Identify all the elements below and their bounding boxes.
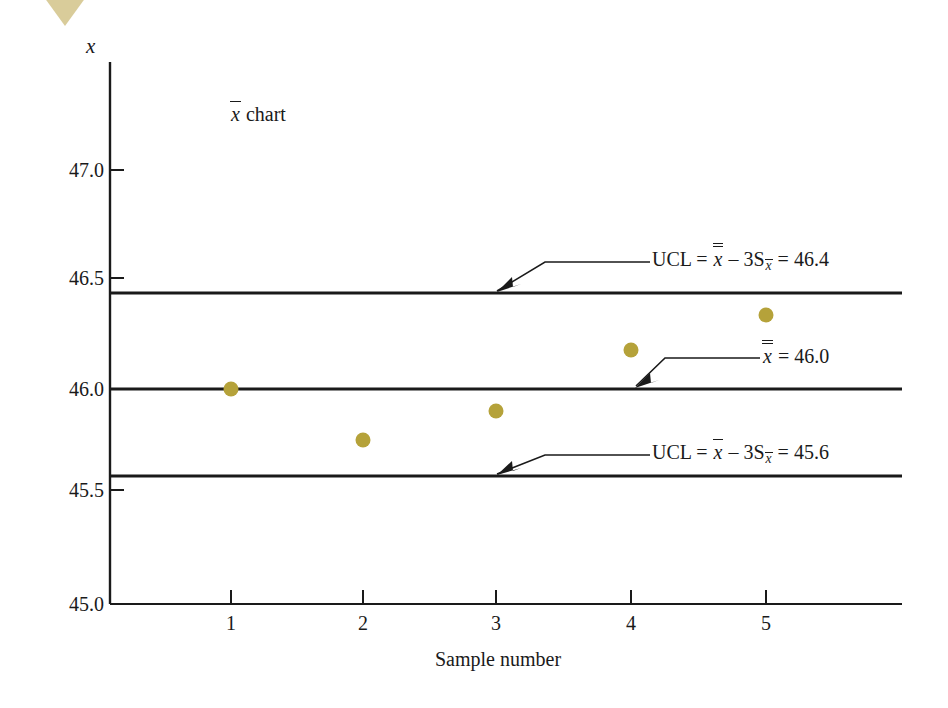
y-tick-label-47: 47.0: [34, 159, 104, 182]
x-tick-label-4: 4: [611, 612, 651, 635]
ucl-subscript: x: [765, 258, 773, 274]
x-tick-label-3: 3: [476, 612, 516, 635]
center-annotation: x = 46.0: [762, 345, 829, 368]
ucl-prefix: UCL =: [652, 248, 713, 270]
y-tick-label-455: 45.5: [34, 479, 104, 502]
data-point-3: [489, 404, 504, 419]
x-tick-label-5: 5: [746, 612, 786, 635]
x-tick-label-2: 2: [343, 612, 383, 635]
chart-title-xbar: x: [230, 103, 241, 126]
ucl-annotation: UCL = x – 3Sx = 46.4: [652, 248, 829, 274]
lcl-leader-line: [497, 455, 650, 474]
figure-canvas: x 47.0 46.5 46.0 45.5 45.0 1 2 3 4 5 Sam…: [0, 0, 948, 708]
data-point-1: [224, 382, 239, 397]
y-tick-label-45: 45.0: [34, 593, 104, 616]
lcl-annotation: UCL = x – 3Sx = 45.6: [652, 441, 829, 467]
center-value: 46.0: [794, 345, 829, 367]
chart-title: x chart: [230, 103, 286, 126]
lcl-prefix: UCL =: [652, 441, 713, 463]
x-axis-label: Sample number: [398, 648, 598, 671]
data-point-4: [624, 343, 639, 358]
center-leader-line: [636, 358, 760, 386]
lcl-arrowhead: [497, 461, 521, 475]
ucl-minus: – 3S: [723, 248, 764, 270]
data-point-5: [759, 308, 774, 323]
x-tick-label-1: 1: [211, 612, 251, 635]
lcl-xbar: x: [713, 441, 724, 464]
data-point-2: [356, 433, 371, 448]
lcl-value: 45.6: [794, 441, 829, 463]
lcl-subscript: x: [765, 451, 773, 467]
ucl-value: 46.4: [794, 248, 829, 270]
ucl-leader-line: [497, 262, 650, 291]
ucl-equals: =: [773, 248, 794, 270]
y-tick-label-465: 46.5: [34, 267, 104, 290]
y-tick-label-46: 46.0: [34, 378, 104, 401]
lcl-minus: – 3S: [723, 441, 764, 463]
center-equals: =: [773, 345, 794, 367]
y-axis-label: x: [86, 34, 95, 59]
center-xdoublebar: x: [762, 345, 773, 368]
lcl-equals: =: [773, 441, 794, 463]
chart-title-word: chart: [241, 103, 286, 125]
ucl-xdoublebar: x: [713, 248, 724, 271]
